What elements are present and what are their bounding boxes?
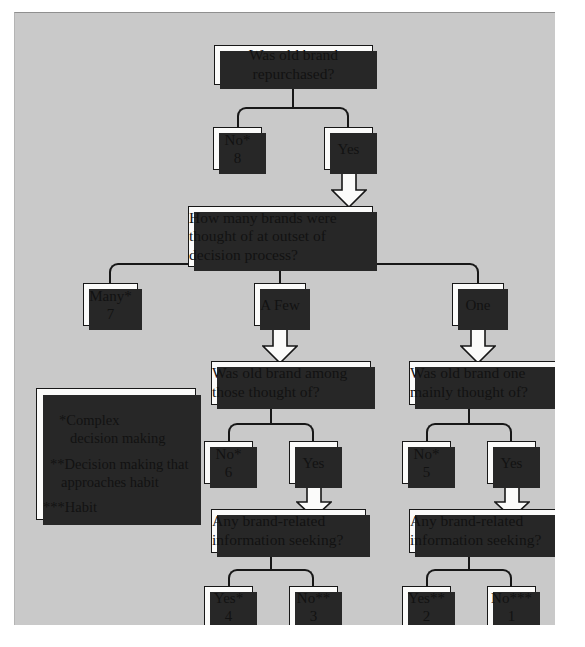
connector-among-elbow-left xyxy=(228,423,272,441)
node-label-line1: Was old brand one xyxy=(410,364,525,381)
legend-item-line1: **Decision making that xyxy=(50,456,189,472)
arrow-afew-to-among xyxy=(262,326,298,364)
node-label: No* xyxy=(214,130,261,148)
node-number: 7 xyxy=(84,305,137,323)
node-number: 5 xyxy=(403,463,450,481)
node-number: 2 xyxy=(403,607,450,625)
legend-item-line2: decision making xyxy=(59,429,165,447)
node-number: 6 xyxy=(205,463,252,481)
connector-mainly-elbow-right xyxy=(468,423,512,441)
connector-leaf-elbow-left-2 xyxy=(426,569,470,586)
arrow-one-to-mainly xyxy=(460,326,496,364)
node-label-line3: decision process? xyxy=(189,246,298,263)
node-no-8: No* 8 xyxy=(213,127,262,170)
diagram-page: Was old brand repurchased? No* 8 Yes How xyxy=(0,0,585,647)
node-label: No** xyxy=(290,589,337,607)
node-label-line2: those thought of? xyxy=(212,383,320,400)
node-no-1: No*** 1 xyxy=(487,586,536,625)
connector-top-elbow-right xyxy=(292,107,349,127)
connector-leaf-elbow-right-1 xyxy=(270,569,314,586)
node-label-line2: information seeking? xyxy=(212,531,343,548)
node-was-old-brand-repurchased: Was old brand repurchased? xyxy=(214,45,373,85)
node-how-many-brands: How many brands were thought of at outse… xyxy=(188,206,373,267)
node-many-7: Many* 7 xyxy=(83,283,138,326)
node-label: Yes** xyxy=(403,589,450,607)
node-label: Yes* xyxy=(205,589,252,607)
node-yes-mid-left: Yes xyxy=(289,441,338,484)
node-number: 1 xyxy=(488,607,535,625)
node-no-5: No* 5 xyxy=(402,441,451,484)
node-label-line2: thought of at outset of xyxy=(189,227,326,244)
connector-leaf-elbow-left-1 xyxy=(228,569,272,586)
node-was-old-brand-among: Was old brand among those thought of? xyxy=(211,361,371,405)
legend-item-line1: *Complex xyxy=(59,412,119,428)
node-yes-mid-right: Yes xyxy=(487,441,536,484)
legend-item-line2: approaches habit xyxy=(50,473,189,491)
node-label: Yes xyxy=(290,453,337,471)
legend-item-habit: ***Habit xyxy=(43,498,97,516)
arrow-yes-to-howmany xyxy=(331,170,367,208)
node-no-6: No* 6 xyxy=(204,441,253,484)
legend-box: *Complex decision making **Decision maki… xyxy=(36,388,196,520)
node-label: No* xyxy=(205,444,252,462)
node-label-line1: Any brand-related xyxy=(212,512,325,529)
node-any-brand-related-left: Any brand-related information seeking? xyxy=(211,509,366,553)
node-label: Many* xyxy=(84,286,137,304)
node-label: A Few xyxy=(255,295,305,313)
node-yes-2: Yes** 2 xyxy=(402,586,451,625)
node-was-old-brand-mainly: Was old brand one mainly thought of? xyxy=(409,361,555,405)
diagram-canvas: Was old brand repurchased? No* 8 Yes How xyxy=(14,12,555,625)
node-label-line1: How many brands were xyxy=(189,208,337,225)
node-label: Was old brand repurchased? xyxy=(215,46,372,84)
node-number: 4 xyxy=(205,607,252,625)
node-label: Yes xyxy=(325,139,372,157)
node-yes-top: Yes xyxy=(324,127,373,170)
legend-item-line1: ***Habit xyxy=(43,499,97,515)
node-label: Yes xyxy=(488,453,535,471)
node-no-3: No** 3 xyxy=(289,586,338,625)
node-label: One xyxy=(453,295,503,313)
connector-among-elbow-right xyxy=(270,423,314,441)
node-yes-4: Yes* 4 xyxy=(204,586,253,625)
node-label: No* xyxy=(403,444,450,462)
node-one: One xyxy=(452,283,504,326)
node-label-line2: mainly thought of? xyxy=(410,383,528,400)
connector-mainly-elbow-left xyxy=(426,423,470,441)
node-a-few: A Few xyxy=(254,283,306,326)
node-label-line2: information seeking? xyxy=(410,531,541,548)
node-any-brand-related-right: Any brand-related information seeking? xyxy=(409,509,555,553)
legend-item-approaches-habit: **Decision making that approaches habit xyxy=(50,455,189,491)
node-label: No*** xyxy=(488,589,535,607)
connector-top-elbow-left xyxy=(237,107,294,127)
node-label-line1: Was old brand among xyxy=(212,364,347,381)
legend-item-complex: *Complex decision making xyxy=(59,411,165,447)
node-label-line1: Any brand-related xyxy=(410,512,523,529)
node-number: 8 xyxy=(214,149,261,167)
node-number: 3 xyxy=(290,607,337,625)
connector-leaf-elbow-right-2 xyxy=(468,569,512,586)
